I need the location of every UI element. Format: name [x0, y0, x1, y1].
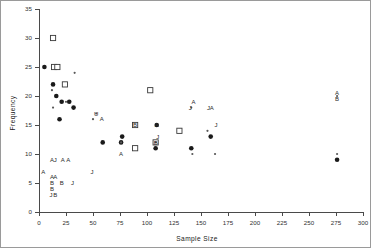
- x-tick-label: 200: [250, 219, 261, 226]
- data-point-filled-circle: [42, 65, 47, 70]
- x-tick-label: 25: [63, 219, 70, 226]
- data-point-open-square: [177, 128, 182, 133]
- data-point-small-dot: [51, 89, 53, 91]
- data-point-filled-circle: [100, 140, 105, 145]
- point-labels: AAJAAAABBBJBJJUAABAJBAJJAJAB: [41, 90, 339, 198]
- data-point-filled-circle: [153, 146, 158, 151]
- data-point-open-square: [133, 146, 138, 151]
- x-tick-label: 250: [304, 219, 315, 226]
- data-point-filled-circle: [189, 146, 194, 151]
- data-point-label: A: [210, 105, 214, 111]
- data-point-label: B: [133, 122, 137, 128]
- data-point-small-dot: [92, 118, 94, 120]
- data-point-label: U: [94, 111, 98, 117]
- data-point-open-square: [62, 82, 67, 87]
- data-point-filled-circle: [57, 117, 62, 122]
- data-point-filled-circle: [120, 134, 125, 139]
- x-tick-label: 150: [196, 219, 207, 226]
- data-point-label: J: [71, 180, 74, 186]
- x-axis-title: Sample Size: [176, 235, 217, 243]
- data-point-label: B: [154, 140, 158, 146]
- y-tick-label: 25: [25, 63, 32, 70]
- data-point-filled-circle: [71, 105, 76, 110]
- data-point-label: B: [53, 192, 57, 198]
- data-point-small-dot: [52, 107, 54, 109]
- y-axis: 05101520253035: [25, 5, 39, 215]
- y-tick-label: 35: [25, 5, 32, 12]
- plot-canvas: 05101520253035 0255075100125150175200225…: [1, 1, 371, 248]
- x-tick-label: 125: [169, 219, 180, 226]
- data-point-filled-circle: [335, 158, 340, 163]
- data-point-open-square: [55, 64, 60, 69]
- data-point-label: J: [189, 105, 192, 111]
- data-point-label: A: [100, 116, 104, 122]
- data-point-small-dot: [65, 101, 67, 103]
- y-tick-label: 5: [29, 179, 33, 186]
- data-point-open-square: [50, 35, 55, 40]
- y-tick-label: 0: [29, 208, 33, 215]
- x-tick-label: 300: [358, 219, 369, 226]
- data-point-label: A: [191, 99, 195, 105]
- x-axis: 0255075100125150175200225250275300: [37, 212, 368, 226]
- data-point-label: B: [60, 180, 64, 186]
- scatter-plot-figure: 05101520253035 0255075100125150175200225…: [0, 0, 371, 248]
- data-point-label: A: [66, 157, 70, 163]
- y-tick-label: 30: [25, 34, 32, 41]
- y-axis-title: Frequency: [9, 95, 17, 130]
- data-point-label: A: [119, 151, 123, 157]
- data-point-label: J: [54, 157, 57, 163]
- x-tick-label: 0: [37, 219, 41, 226]
- data-point-label: A: [155, 122, 159, 128]
- data-point-filled-circle: [54, 94, 59, 99]
- x-tick-label: 50: [90, 219, 97, 226]
- data-point-filled-circle: [67, 100, 72, 105]
- data-point-small-dot: [214, 153, 216, 155]
- data-point-label: A: [41, 169, 45, 175]
- data-point-small-dot: [74, 72, 76, 74]
- y-tick-label: 10: [25, 150, 32, 157]
- x-tick-label: 225: [277, 219, 288, 226]
- data-point-small-dot: [206, 130, 208, 132]
- x-tick-label: 275: [331, 219, 342, 226]
- data-point-filled-circle: [51, 82, 56, 87]
- data-point-filled-circle: [59, 100, 64, 105]
- data-point-small-dot: [191, 153, 193, 155]
- x-tick-label: 100: [142, 219, 153, 226]
- data-point-filled-circle: [208, 134, 213, 139]
- data-point-label: B: [335, 96, 339, 102]
- data-point-label: J: [215, 122, 218, 128]
- y-tick-label: 15: [25, 121, 32, 128]
- data-point-small-dot: [120, 141, 122, 143]
- data-point-small-dot: [336, 153, 338, 155]
- data-point-label: J: [90, 169, 93, 175]
- data-point-open-square: [148, 88, 153, 93]
- x-tick-label: 75: [117, 219, 124, 226]
- data-point-label: J: [49, 192, 52, 198]
- x-tick-label: 175: [223, 219, 234, 226]
- y-tick-label: 20: [25, 92, 32, 99]
- data-point-label: A: [61, 157, 65, 163]
